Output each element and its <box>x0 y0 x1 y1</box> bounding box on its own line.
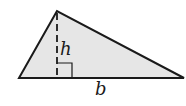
triangle-shape <box>19 11 184 78</box>
base-label: b <box>95 80 107 98</box>
triangle-area-diagram: h b <box>0 0 186 106</box>
height-label: h <box>60 40 72 58</box>
triangle-figure <box>0 0 186 106</box>
